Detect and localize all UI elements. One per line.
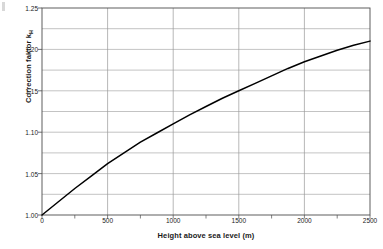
gridlines bbox=[42, 8, 370, 215]
x-axis-tick-label: 0 bbox=[22, 217, 62, 224]
x-axis-tick-label: 2000 bbox=[284, 217, 324, 224]
y-axis-title-subscript: H bbox=[27, 30, 33, 34]
x-axis-title: Height above sea level (m) bbox=[42, 231, 370, 240]
x-axis-tick-label: 1500 bbox=[219, 217, 259, 224]
y-axis-title: Correction faktor kH bbox=[24, 0, 33, 142]
x-axis-tick-label: 1000 bbox=[153, 217, 193, 224]
y-axis-title-text: Correction faktor k bbox=[24, 34, 33, 103]
x-axis-tick-label: 500 bbox=[88, 217, 128, 224]
chart-figure: 1.001.051.101.151.201.25 050010001500200… bbox=[0, 0, 383, 249]
y-axis-tick-label: 1.05 bbox=[16, 170, 38, 177]
data-series-line bbox=[42, 41, 370, 215]
axis-major-ticks bbox=[38, 8, 42, 215]
x-axis-tick-label: 2500 bbox=[350, 217, 383, 224]
chart-plot-area bbox=[0, 0, 383, 249]
